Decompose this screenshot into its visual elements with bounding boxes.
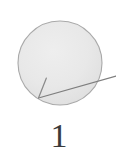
figure-callout-panel: 1 [0,0,116,158]
figure-illustration [0,0,116,158]
